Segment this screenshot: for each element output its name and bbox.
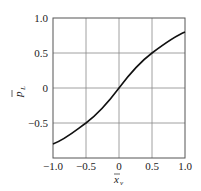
svg-text:p: p bbox=[12, 91, 24, 98]
x-tick-label: 0.5 bbox=[145, 160, 159, 172]
y-tick-label: 0.5 bbox=[34, 47, 48, 59]
svg-text:x: x bbox=[113, 173, 119, 185]
x-axis-label: x v bbox=[113, 173, 124, 187]
svg-text:L: L bbox=[19, 86, 27, 91]
x-tick-label: −1.0 bbox=[43, 160, 63, 172]
x-tick-label: 0 bbox=[116, 160, 122, 172]
y-tick-label: −0.5 bbox=[28, 117, 48, 129]
x-tick-label: −0.5 bbox=[76, 160, 96, 172]
chart: 1.0 0.5 0 −0.5 −1.0 −0.5 0 0.5 1.0 x v p… bbox=[0, 0, 201, 191]
svg-text:v: v bbox=[120, 179, 124, 187]
y-axis-label: p L bbox=[12, 86, 27, 98]
x-tick-label: 1.0 bbox=[178, 160, 192, 172]
y-tick-label: 0 bbox=[43, 82, 49, 94]
y-tick-label: 1.0 bbox=[34, 12, 48, 24]
